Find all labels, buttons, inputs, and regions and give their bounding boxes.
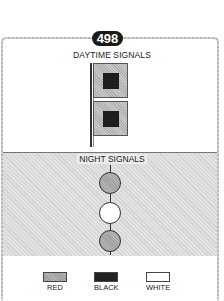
legend-white-swatch bbox=[146, 272, 170, 282]
legend-black-swatch bbox=[94, 272, 118, 282]
flag-upper bbox=[93, 63, 128, 98]
light-top-red bbox=[99, 172, 121, 194]
legend-white: WHITE bbox=[146, 272, 170, 292]
light-bottom-red bbox=[99, 230, 121, 252]
legend-red: RED bbox=[43, 272, 67, 292]
night-signals-title: NIGHT SIGNALS bbox=[0, 154, 224, 164]
flag-lower-black-square bbox=[103, 111, 119, 127]
flag-upper-black-square bbox=[103, 73, 119, 89]
flag-mast bbox=[90, 63, 92, 147]
signal-number-badge: 498 bbox=[92, 31, 123, 46]
legend-black: BLACK bbox=[94, 272, 119, 292]
light-middle-white bbox=[99, 202, 121, 224]
flag-lower bbox=[93, 101, 128, 136]
legend-red-swatch bbox=[43, 272, 67, 282]
daytime-signals-title: DAYTIME SIGNALS bbox=[0, 50, 224, 60]
